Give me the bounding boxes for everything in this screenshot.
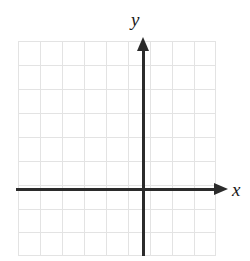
grid	[18, 41, 216, 256]
y-axis-line	[142, 45, 145, 256]
x-axis-label: x	[232, 180, 240, 199]
grid-line-horizontal	[18, 232, 216, 233]
grid-line-horizontal	[18, 209, 216, 210]
grid-line-horizontal	[18, 137, 216, 138]
grid-line-vertical	[194, 41, 195, 256]
coordinate-plane-figure: y x	[0, 0, 250, 261]
grid-line-horizontal	[18, 41, 216, 42]
grid-line-vertical	[128, 41, 129, 256]
grid-line-horizontal	[18, 185, 216, 186]
grid-line-horizontal	[18, 65, 216, 66]
grid-line-horizontal	[18, 89, 216, 90]
grid-line-vertical	[18, 41, 19, 256]
grid-line-vertical	[40, 41, 41, 256]
x-axis-line	[16, 188, 220, 191]
grid-line-vertical	[150, 41, 151, 256]
grid-line-horizontal	[18, 255, 216, 256]
grid-line-vertical	[106, 41, 107, 256]
grid-line-vertical	[172, 41, 173, 256]
grid-line-vertical	[62, 41, 63, 256]
grid-line-vertical	[215, 41, 216, 256]
y-axis-arrow-icon	[137, 37, 149, 51]
grid-line-horizontal	[18, 161, 216, 162]
grid-line-vertical	[84, 41, 85, 256]
x-axis-arrow-icon	[214, 183, 228, 195]
grid-line-horizontal	[18, 113, 216, 114]
y-axis-label: y	[131, 10, 139, 29]
